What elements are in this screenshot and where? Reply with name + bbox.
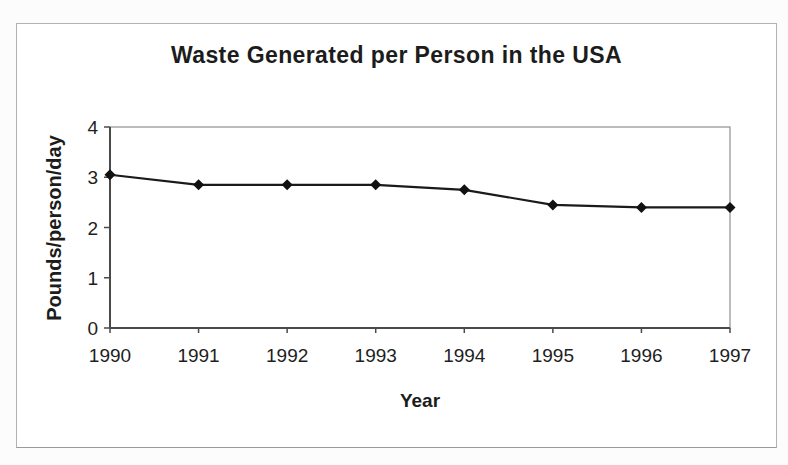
data-point-marker [193,179,204,190]
x-tick-label: 1994 [443,345,486,366]
data-point-marker [370,179,381,190]
data-point-marker [459,184,470,195]
data-point-marker [547,199,558,210]
data-point-marker [636,202,647,213]
y-tick-label: 1 [87,268,98,289]
x-tick-label: 1992 [266,345,308,366]
x-axis-title: Year [110,390,730,412]
data-point-marker [725,202,736,213]
plot-border [110,127,730,328]
x-tick-label: 1990 [89,345,131,366]
y-tick-label: 2 [87,218,98,239]
y-tick-label: 0 [87,318,98,339]
data-point-marker [282,179,293,190]
y-tick-label: 4 [87,117,98,138]
chart-figure: Waste Generated per Person in the USA Po… [0,0,788,465]
x-tick-label: 1996 [620,345,662,366]
data-line [110,175,730,208]
x-tick-label: 1991 [177,345,219,366]
x-tick-label: 1997 [709,345,751,366]
y-tick-label: 3 [87,167,98,188]
x-tick-label: 1995 [532,345,574,366]
data-point-marker [105,169,116,180]
x-tick-label: 1993 [355,345,397,366]
